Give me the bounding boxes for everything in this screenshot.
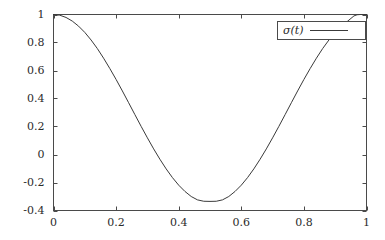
y-tick-label: 1	[0, 8, 45, 21]
x-tick-label: 0.6	[221, 216, 261, 229]
legend-entry-sigma-t: σ(t)	[283, 25, 348, 36]
y-tick-label: 0.2	[0, 120, 45, 133]
y-tick-label: -0.2	[0, 176, 45, 189]
y-tick-label: 0.4	[0, 92, 45, 105]
legend[interactable]: σ(t)	[277, 21, 366, 40]
y-tick-label: 0.6	[0, 64, 45, 77]
x-tick-label: 0	[34, 216, 74, 229]
legend-label: σ(t)	[283, 25, 304, 36]
x-tick-label: 0.8	[284, 216, 324, 229]
y-tick-label: 0	[0, 148, 45, 161]
x-tick-label: 0.4	[159, 216, 199, 229]
x-tick-label: 0.2	[96, 216, 136, 229]
x-tick-label: 1	[347, 216, 385, 229]
figure-plot: 10.80.60.40.20-0.2-0.4 00.20.40.60.81 σ(…	[0, 0, 385, 240]
y-tick-label: 0.8	[0, 36, 45, 49]
legend-line-sample	[310, 30, 348, 31]
